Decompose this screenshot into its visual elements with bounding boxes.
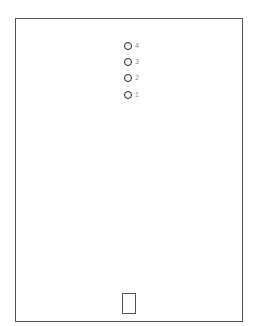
circle-icon [124,74,132,82]
marker-label: 3 [135,58,139,66]
circle-icon [124,42,132,50]
circle-icon [124,91,132,99]
marker-label: 2 [135,74,139,82]
marker-2[interactable]: 2 [124,73,139,83]
marker-label: 1 [135,91,139,99]
marker-1[interactable]: 1 [124,90,139,100]
circle-icon [124,58,132,66]
marker-label: 4 [135,42,139,50]
marker-3[interactable]: 3 [124,57,139,67]
rectangle-box[interactable] [122,293,136,314]
marker-4[interactable]: 4 [124,41,139,51]
